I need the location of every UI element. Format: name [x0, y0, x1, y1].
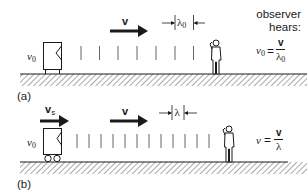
caption-line-1: observer: [256, 8, 301, 21]
wave-velocity-label-a: v: [122, 16, 128, 27]
panel-label-b: (b): [17, 179, 31, 191]
source-velocity-label: vs: [45, 104, 55, 117]
wavelength-label-b: λ: [175, 107, 180, 118]
subscript: 0: [261, 49, 265, 58]
numerator: v: [276, 38, 286, 50]
observer-person-icon-a: [210, 40, 221, 74]
wave-velocity-label-b: v: [122, 106, 128, 117]
source-frequency-label-a: ν0: [27, 51, 36, 64]
sound-source-stationary-icon: [44, 43, 62, 75]
wavefronts-a: [81, 46, 212, 60]
observer-person-icon-b: [223, 126, 234, 162]
formula-lhs: ν: [256, 135, 261, 146]
formula-b: ν = v λ: [256, 128, 283, 152]
ground-a: [20, 74, 307, 86]
caption-line-2: hears:: [256, 21, 301, 34]
subscript: 0: [32, 55, 36, 64]
wave-velocity-arrow-b: [110, 115, 148, 127]
observer-hears-caption: observer hears:: [256, 8, 301, 34]
panel-label-a: (a): [17, 91, 31, 103]
wave-velocity-arrow-a: [110, 25, 148, 37]
denominator: λ: [276, 140, 281, 152]
subscript: s: [51, 108, 55, 117]
formula-lhs: ν0: [256, 45, 265, 58]
denominator: λ0: [276, 50, 285, 64]
sound-source-moving-icon: [44, 129, 62, 162]
equals-sign: =: [267, 45, 274, 57]
numerator: v: [274, 128, 284, 140]
wavefronts-b: [77, 134, 209, 148]
subscript: 0: [182, 21, 186, 30]
source-frequency-label-b: ν0: [27, 137, 36, 150]
fraction: v λ: [274, 128, 284, 152]
fraction: v λ0: [276, 38, 286, 64]
equals-sign: =: [264, 134, 271, 146]
wavelength-label-a: λ0: [177, 17, 186, 30]
subscript: 0: [32, 141, 36, 150]
subscript: 0: [281, 55, 285, 64]
formula-a: ν0 = v λ0: [256, 38, 285, 64]
ground-b: [20, 162, 307, 174]
